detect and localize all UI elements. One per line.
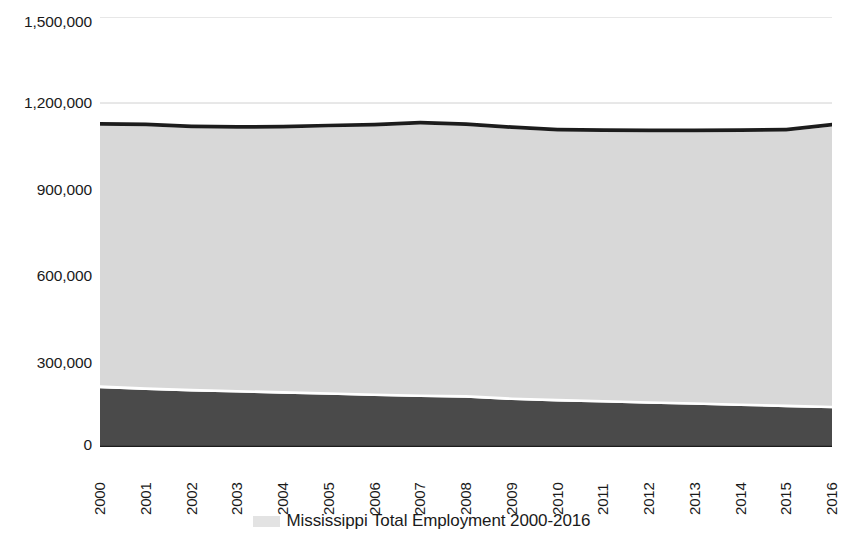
x-axis-tick-text: 2003 [229,482,245,515]
y-axis-tick-label: 1,200,000 [24,95,92,111]
x-axis-tick-text: 2015 [778,482,794,515]
x-axis-tick-text: 2000 [92,482,108,515]
area-series-group [100,121,832,447]
legend-color-swatch [253,516,280,527]
y-axis-tick-label: 300,000 [37,355,92,371]
x-axis-tick-text: 2002 [184,482,200,515]
plot-area [100,17,832,447]
x-axis-tick-text: 2001 [138,482,154,515]
y-axis-tick-label: 0 [83,437,92,453]
x-axis-tick-text: 2014 [733,482,749,515]
stacked-area-svg [100,17,832,447]
chart-legend: Mississippi Total Employment 2000-2016 [0,512,843,530]
x-axis-labels: 2000200120022003200420052006200720082009… [100,447,832,507]
x-axis-tick-text: 2016 [824,482,840,515]
x-axis-tick-text: 2011 [595,484,611,515]
employment-area-chart: 1,500,000 1,200,000 900,000 600,000 300,… [0,0,843,540]
y-axis-tick-label: 600,000 [37,268,92,284]
y-axis-tick-label: 900,000 [37,182,92,198]
y-axis-labels: 1,500,000 1,200,000 900,000 600,000 300,… [0,0,92,460]
legend-label: Mississippi Total Employment 2000-2016 [287,512,591,530]
x-axis-tick-text: 2012 [641,482,657,515]
area-series [100,125,832,406]
x-axis-tick-text: 2013 [687,482,703,515]
y-axis-tick-label: 1,500,000 [24,14,92,30]
